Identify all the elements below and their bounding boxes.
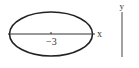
center-value-label: −3	[46, 36, 57, 47]
y-axis-label: y	[120, 1, 125, 11]
x-axis-label: x	[97, 28, 102, 39]
ellipse-diagram: x −3 y	[0, 0, 139, 68]
